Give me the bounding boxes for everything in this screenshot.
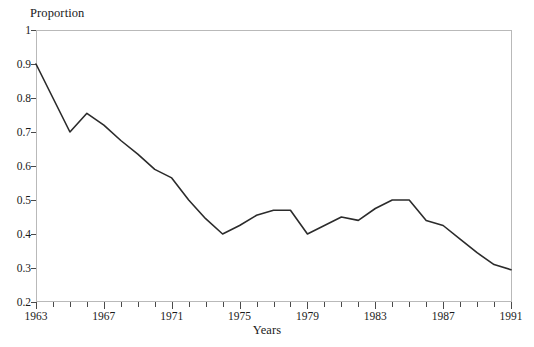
x-tick-mark bbox=[70, 302, 71, 307]
x-tick-label: 1971 bbox=[160, 310, 183, 322]
x-tick-mark bbox=[138, 302, 139, 307]
x-tick-mark bbox=[121, 302, 122, 307]
x-tick-mark bbox=[358, 302, 359, 307]
x-tick-mark bbox=[172, 302, 173, 309]
x-tick-mark bbox=[426, 302, 427, 307]
x-tick-label: 1983 bbox=[364, 310, 387, 322]
x-tick-mark bbox=[375, 302, 376, 309]
x-tick-mark bbox=[36, 302, 37, 309]
x-tick-mark bbox=[104, 302, 105, 309]
x-tick-label: 1979 bbox=[296, 310, 319, 322]
x-tick-label: 1967 bbox=[92, 310, 115, 322]
x-axis: 19631967197119751979198319871991 bbox=[0, 0, 534, 347]
x-tick-mark bbox=[341, 302, 342, 307]
x-tick-mark bbox=[189, 302, 190, 307]
x-tick-mark bbox=[223, 302, 224, 307]
x-tick-label: 1987 bbox=[432, 310, 455, 322]
x-tick-mark bbox=[155, 302, 156, 307]
x-tick-mark bbox=[307, 302, 308, 309]
x-tick-label: 1963 bbox=[25, 310, 48, 322]
x-tick-mark bbox=[87, 302, 88, 307]
x-tick-mark bbox=[274, 302, 275, 307]
x-tick-mark bbox=[443, 302, 444, 309]
x-tick-mark bbox=[206, 302, 207, 307]
x-tick-mark bbox=[324, 302, 325, 307]
x-tick-label: 1975 bbox=[228, 310, 251, 322]
x-tick-mark bbox=[494, 302, 495, 307]
x-tick-mark bbox=[460, 302, 461, 307]
x-tick-mark bbox=[53, 302, 54, 307]
x-tick-mark bbox=[392, 302, 393, 307]
x-tick-mark bbox=[240, 302, 241, 309]
x-tick-label: 1991 bbox=[500, 310, 523, 322]
x-tick-mark bbox=[477, 302, 478, 307]
x-tick-mark bbox=[290, 302, 291, 307]
x-tick-mark bbox=[511, 302, 512, 309]
line-chart: Proportion 0.20.30.40.50.60.70.80.91 196… bbox=[0, 0, 534, 347]
x-tick-mark bbox=[257, 302, 258, 307]
x-tick-mark bbox=[409, 302, 410, 307]
x-axis-title: Years bbox=[0, 323, 534, 338]
